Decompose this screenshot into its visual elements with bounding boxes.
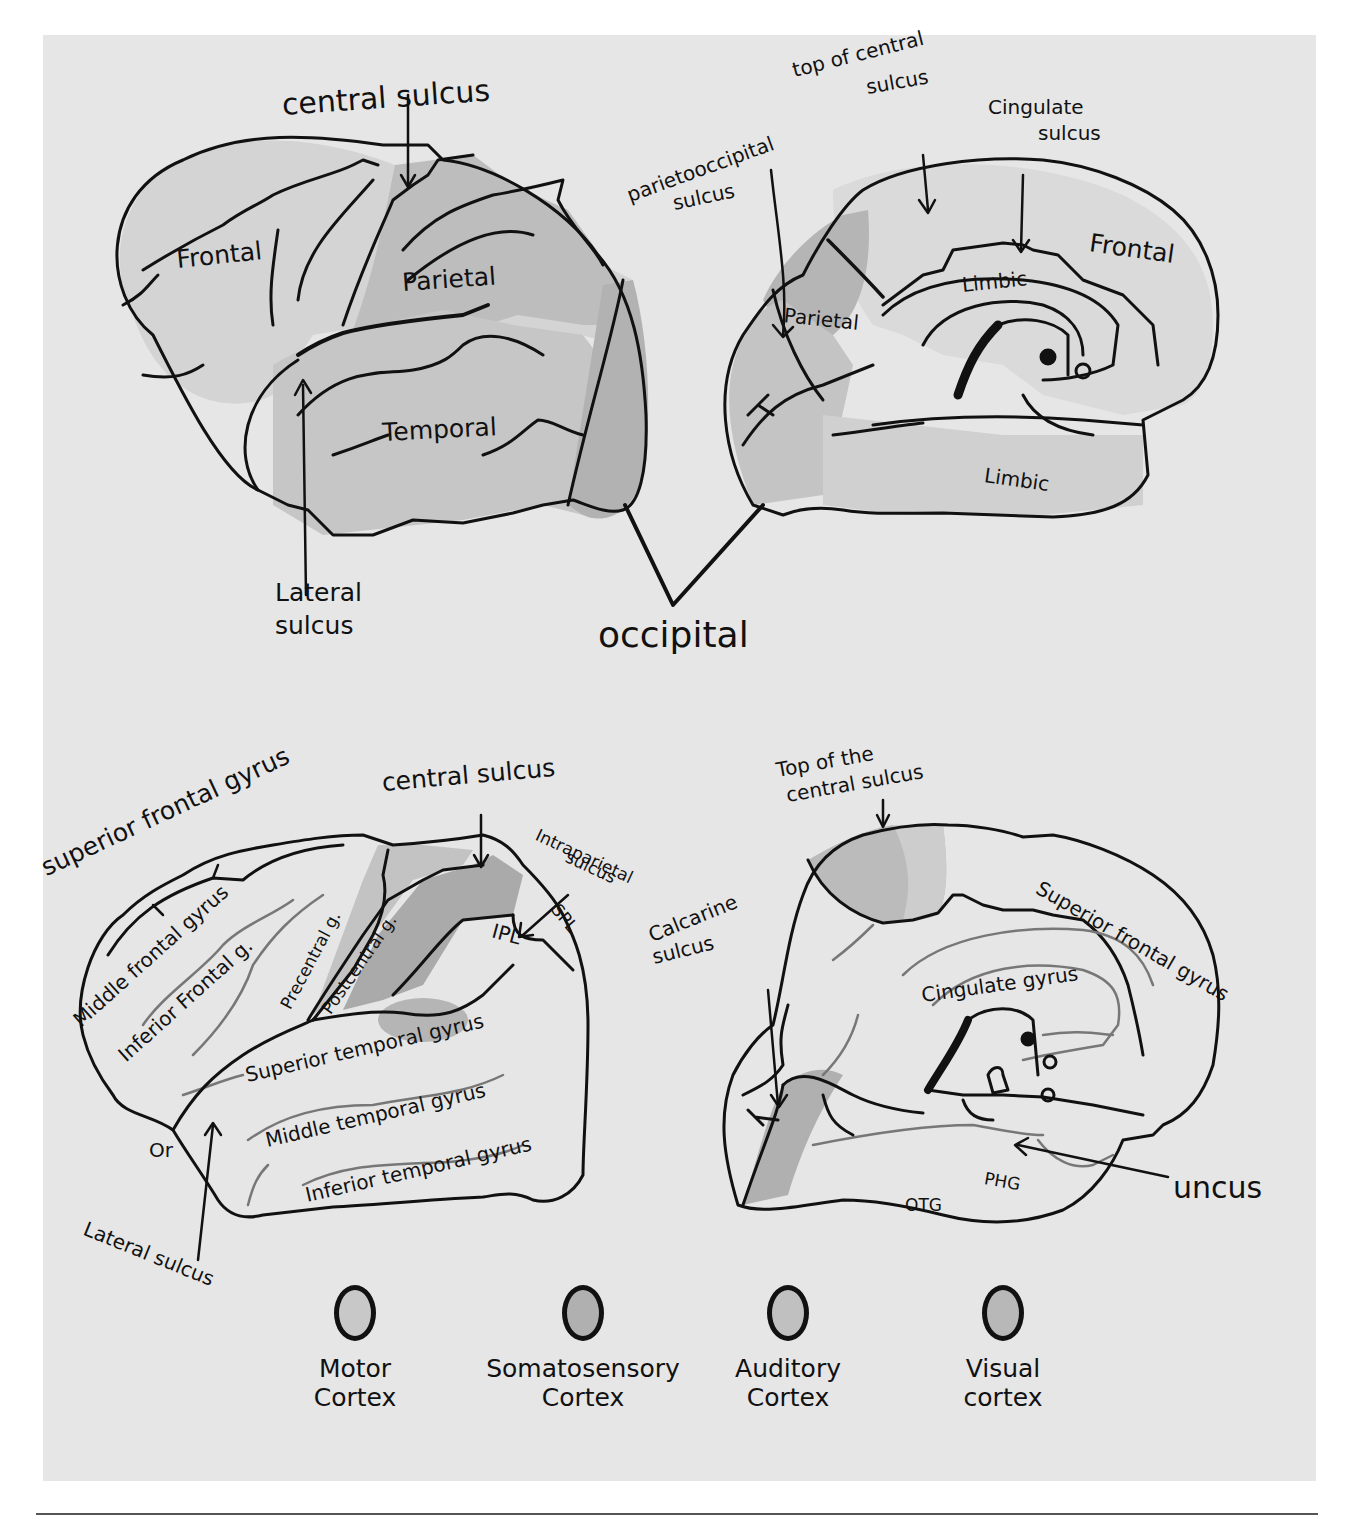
- caption-cropped: [36, 1523, 676, 1531]
- somatosensory-swatch-icon: [562, 1285, 604, 1341]
- legend-item-somatosensory: Somatosensory Cortex: [483, 1285, 683, 1413]
- motor-swatch-icon: [334, 1285, 376, 1341]
- auditory-swatch-icon: [767, 1285, 809, 1341]
- legend-label-line1: Auditory: [688, 1355, 888, 1384]
- legend-label-line2: Cortex: [255, 1384, 455, 1413]
- medial-gyri-drawing: [724, 800, 1219, 1222]
- legend-item-motor: Motor Cortex: [255, 1285, 455, 1413]
- label-otg: OTG: [905, 1197, 942, 1214]
- drawing-paper: central sulcus Frontal Parietal Temporal…: [43, 35, 1316, 1481]
- label-cingulate-line2: sulcus: [1038, 123, 1101, 143]
- label-lateral-sulcus-line2: sulcus: [275, 613, 353, 638]
- label-cingulate-line1: Cingulate: [988, 97, 1084, 117]
- legend-label-line2: cortex: [903, 1384, 1103, 1413]
- label-lateral-sulcus-line1: Lateral: [275, 580, 362, 605]
- medial-lobes-drawing: [725, 155, 1218, 517]
- legend: Motor Cortex Somatosensory Cortex Audito…: [43, 1285, 1316, 1475]
- legend-label-line2: Cortex: [688, 1384, 888, 1413]
- label-limbic-upper: Limbic: [961, 268, 1028, 295]
- visual-swatch-icon: [982, 1285, 1024, 1341]
- lateral-lobes-drawing: [117, 95, 648, 595]
- label-parietal-lobe: Parietal: [401, 264, 496, 295]
- legend-item-auditory: Auditory Cortex: [688, 1285, 888, 1413]
- legend-label-line1: Visual: [903, 1355, 1103, 1384]
- legend-label-line2: Cortex: [483, 1384, 683, 1413]
- label-or: Or: [149, 1140, 173, 1160]
- caption-divider: [36, 1513, 1318, 1515]
- label-occipital: occipital: [598, 617, 749, 653]
- label-ipl: IPL: [490, 921, 523, 948]
- legend-label-line1: Somatosensory: [483, 1355, 683, 1384]
- legend-label-line1: Motor: [255, 1355, 455, 1384]
- label-uncus: uncus: [1173, 1173, 1262, 1203]
- legend-item-visual: Visual cortex: [903, 1285, 1103, 1413]
- label-temporal-lobe: Temporal: [382, 414, 498, 445]
